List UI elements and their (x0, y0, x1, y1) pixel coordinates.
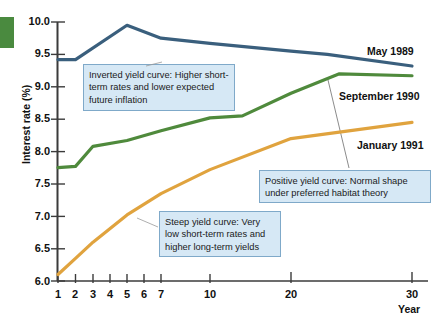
series-line-september-1990 (58, 74, 412, 168)
chart-canvas: Interest rate (%) 10.0 9.5 9.0 8.5 8.0 7… (0, 0, 440, 321)
chart-svg (0, 0, 440, 321)
leader-line-steep (137, 218, 158, 227)
leader-line-inverted (146, 62, 162, 66)
series-line-january-1991 (58, 122, 412, 274)
series-line-may-1989 (58, 25, 412, 66)
leader-line-positive (328, 80, 349, 168)
